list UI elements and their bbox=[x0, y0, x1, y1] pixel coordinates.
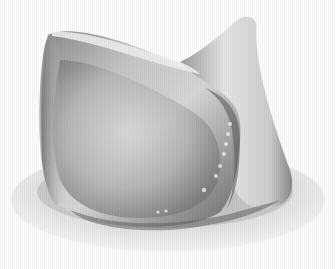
render-canvas bbox=[0, 0, 336, 269]
mesh-texture-overlay bbox=[0, 0, 336, 269]
valve-model-render bbox=[0, 0, 336, 269]
